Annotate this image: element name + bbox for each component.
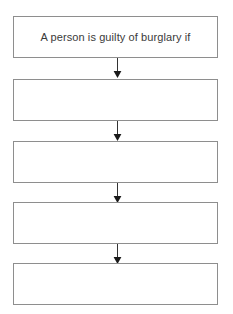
arrow-down-icon [110,58,125,79]
arrow-down-icon [110,183,125,204]
flowchart-node-5[interactable] [13,263,218,305]
flowchart-node-2[interactable] [13,79,218,121]
flowchart-canvas: A person is guilty of burglary if [0,0,233,314]
arrow-down-icon [110,244,125,265]
flowchart-node-1[interactable]: A person is guilty of burglary if [13,16,218,58]
arrow-down-icon [110,121,125,142]
flowchart-node-4[interactable] [13,202,218,244]
flowchart-node-1-label: A person is guilty of burglary if [36,31,194,44]
flowchart-node-3[interactable] [13,141,218,183]
